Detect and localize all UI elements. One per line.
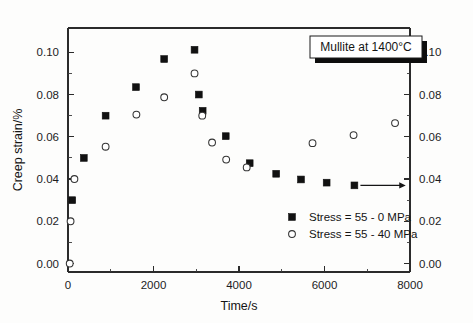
y-right-tick-label: 0.00: [419, 258, 441, 270]
series-1: [69, 46, 358, 203]
legend: Stress = 55 - 0 MPaStress = 55 - 40 MPa: [289, 211, 418, 240]
legend-label-2: Stress = 55 - 40 MPa: [309, 228, 418, 240]
x-tick-label: 8000: [397, 279, 423, 291]
legend-marker-filled-square: [289, 214, 296, 221]
data-point-open-circle: [102, 143, 109, 150]
data-point-open-circle: [161, 94, 168, 101]
chart-figure: 02000400060008000 0.000.020.040.060.080.…: [0, 0, 473, 323]
y-left-tick-label: 0.06: [37, 131, 59, 143]
data-point-filled-square: [222, 133, 229, 140]
y-left-tick-label: 0.08: [37, 89, 59, 101]
data-point-open-circle: [133, 111, 140, 118]
x-tick-label: 4000: [226, 279, 252, 291]
legend-marker-open-circle: [289, 231, 296, 238]
data-point-open-circle: [243, 164, 250, 171]
data-point-filled-square: [195, 91, 202, 98]
legend-label-1: Stress = 55 - 0 MPa: [309, 211, 412, 223]
data-point-filled-square: [161, 56, 168, 63]
data-point-open-circle: [66, 260, 73, 267]
x-tick-label: 6000: [312, 279, 338, 291]
data-point-open-circle: [191, 70, 198, 77]
x-tick-label: 0: [65, 279, 71, 291]
annotation-arrow: [360, 182, 405, 188]
creep-strain-scatter-plot: 02000400060008000 0.000.020.040.060.080.…: [0, 0, 473, 323]
x-tick-label: 2000: [141, 279, 167, 291]
y-right-tick-label: 0.08: [419, 89, 441, 101]
data-point-filled-square: [102, 112, 109, 119]
data-point-open-circle: [309, 140, 316, 147]
y-right-tick-label: 0.02: [419, 215, 441, 227]
data-point-filled-square: [80, 155, 87, 162]
y-axis-label: Creep strain/%: [11, 109, 25, 192]
data-point-filled-square: [298, 176, 305, 183]
data-point-open-circle: [350, 132, 357, 139]
data-point-filled-square: [351, 182, 358, 189]
title-box: Mullite at 1400°C: [310, 36, 427, 63]
data-point-open-circle: [392, 120, 399, 127]
x-axis-ticks: 02000400060008000: [65, 266, 423, 291]
data-point-open-circle: [71, 176, 78, 183]
data-point-filled-square: [133, 84, 140, 91]
title-box-label: Mullite at 1400°C: [320, 40, 412, 54]
arrow-head: [399, 182, 406, 188]
y-right-tick-label: 0.04: [419, 173, 442, 185]
data-point-open-circle: [223, 156, 230, 163]
data-point-filled-square: [191, 46, 198, 53]
y-left-tick-label: 0.10: [37, 46, 59, 58]
x-axis-label: Time/s: [220, 299, 257, 313]
data-point-open-circle: [67, 218, 74, 225]
y-left-tick-label: 0.00: [37, 258, 59, 270]
data-point-filled-square: [69, 197, 76, 204]
y-left-tick-label: 0.04: [37, 173, 60, 185]
data-point-filled-square: [323, 179, 330, 186]
y-left-tick-label: 0.02: [37, 215, 59, 227]
data-point-filled-square: [273, 170, 280, 177]
data-point-open-circle: [199, 112, 206, 119]
y-right-tick-label: 0.06: [419, 131, 441, 143]
data-point-open-circle: [209, 139, 216, 146]
